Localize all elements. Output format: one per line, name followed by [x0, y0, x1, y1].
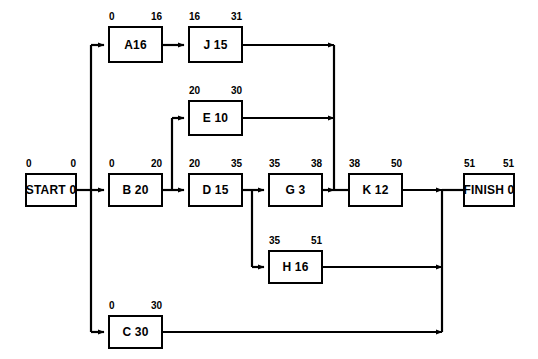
node-j-early-finish: 31 [220, 12, 242, 22]
node-start-label: START 0 [26, 184, 77, 196]
node-h-label: H 16 [282, 261, 308, 273]
node-e-early-finish: 30 [220, 86, 242, 96]
node-g-label: G 3 [286, 184, 306, 196]
node-a-early-start: 0 [109, 12, 115, 22]
node-c-early-finish: 30 [140, 301, 162, 311]
node-a-early-finish: 16 [140, 12, 162, 22]
node-g[interactable]: G 3 [268, 173, 323, 207]
node-b-early-start: 0 [109, 159, 115, 169]
node-j[interactable]: J 15 [188, 26, 243, 63]
node-finish-early-start: 51 [464, 159, 475, 169]
node-g-early-finish: 38 [300, 159, 322, 169]
node-b-early-finish: 20 [140, 159, 162, 169]
node-finish[interactable]: FINISH 0 [463, 173, 515, 207]
node-a[interactable]: A16 [108, 26, 163, 63]
node-start-early-start: 0 [26, 159, 32, 169]
node-h-early-start: 35 [269, 236, 280, 246]
node-c-early-start: 0 [109, 301, 115, 311]
node-c-label: C 30 [122, 326, 148, 338]
node-finish-label: FINISH 0 [464, 184, 515, 196]
node-b[interactable]: B 20 [108, 173, 163, 207]
node-k[interactable]: K 12 [348, 173, 403, 207]
network-diagram: START 0 0 0 A16 0 16 J 15 16 31 E 10 20 … [0, 0, 538, 359]
node-start[interactable]: START 0 [25, 173, 77, 207]
node-h-early-finish: 51 [300, 236, 322, 246]
node-d[interactable]: D 15 [188, 173, 243, 207]
node-j-early-start: 16 [189, 12, 200, 22]
node-g-early-start: 35 [269, 159, 280, 169]
node-e-label: E 10 [203, 112, 229, 124]
node-k-label: K 12 [362, 184, 388, 196]
node-h[interactable]: H 16 [268, 250, 323, 284]
node-d-early-finish: 35 [220, 159, 242, 169]
node-k-early-finish: 50 [380, 159, 402, 169]
node-a-label: A16 [124, 39, 147, 51]
node-c[interactable]: C 30 [108, 315, 163, 349]
node-j-label: J 15 [203, 39, 227, 51]
node-d-label: D 15 [202, 184, 228, 196]
node-b-label: B 20 [122, 184, 148, 196]
node-k-early-start: 38 [349, 159, 360, 169]
node-e-early-start: 20 [189, 86, 200, 96]
node-start-early-finish: 0 [57, 159, 76, 169]
node-finish-early-finish: 51 [493, 159, 514, 169]
node-d-early-start: 20 [189, 159, 200, 169]
node-e[interactable]: E 10 [188, 100, 243, 136]
